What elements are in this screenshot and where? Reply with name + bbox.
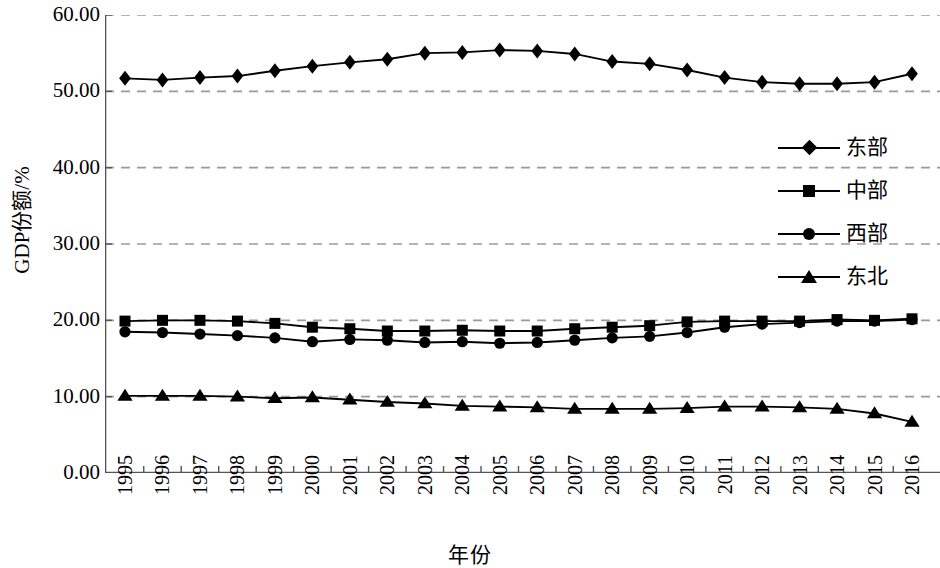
x-tick-label: 2015: [865, 455, 885, 517]
data-point-circle: [382, 335, 393, 346]
data-point-circle: [269, 332, 280, 343]
data-point-circle: [157, 327, 168, 338]
legend-label: 东部: [840, 137, 888, 158]
data-point-circle: [494, 338, 505, 349]
data-point-diamond: [419, 46, 431, 61]
data-point-circle: [419, 337, 430, 348]
data-point-circle: [682, 327, 693, 338]
x-tick-label: 2002: [377, 455, 397, 517]
x-tick-label: 2016: [902, 455, 922, 517]
data-point-diamond: [119, 71, 131, 86]
data-point-square: [269, 318, 280, 329]
data-point-circle: [869, 315, 880, 326]
diamond-marker-icon: [801, 140, 817, 156]
data-point-diamond: [269, 63, 281, 78]
legend-item-东部[interactable]: 东部: [778, 126, 940, 169]
x-tick-label: 1998: [227, 455, 247, 517]
data-point-diamond: [569, 46, 581, 61]
legend-symbol-square-icon: [778, 180, 840, 202]
data-point-triangle: [605, 402, 620, 414]
data-point-diamond: [456, 45, 468, 60]
data-point-square: [307, 322, 318, 333]
data-point-circle: [307, 336, 318, 347]
data-point-square: [232, 316, 243, 327]
data-point-diamond: [756, 75, 768, 90]
data-point-triangle: [717, 399, 732, 411]
data-point-square: [457, 325, 468, 336]
data-point-diamond: [157, 72, 169, 87]
x-tick-label: 2008: [602, 455, 622, 517]
data-point-diamond: [232, 69, 244, 84]
data-point-circle: [644, 331, 655, 342]
x-tick-label: 2005: [490, 455, 510, 517]
data-point-circle: [194, 328, 205, 339]
data-point-circle: [794, 317, 805, 328]
data-point-diamond: [906, 66, 918, 81]
x-tick-label: 2012: [752, 455, 772, 517]
y-tick-label: 0.00: [14, 462, 100, 483]
data-point-diamond: [307, 59, 319, 74]
x-axis-title: 年份: [0, 538, 940, 568]
x-tick-label: 1995: [115, 455, 135, 517]
data-point-triangle: [192, 389, 207, 401]
legend-item-东北[interactable]: 东北: [778, 255, 940, 298]
series-line: [125, 319, 912, 331]
legend-item-西部[interactable]: 西部: [778, 212, 940, 255]
data-point-diamond: [494, 43, 506, 58]
series-4: [117, 389, 919, 427]
data-point-diamond: [381, 52, 393, 67]
circle-marker-icon: [803, 228, 815, 240]
x-tick-marks: [144, 466, 894, 473]
series-line: [125, 50, 912, 84]
data-point-triangle: [530, 400, 545, 412]
x-tick-label: 2011: [715, 455, 735, 517]
x-tick-label: 2010: [677, 455, 697, 517]
data-point-triangle: [117, 389, 132, 401]
x-tick-label: 1999: [265, 455, 285, 517]
data-point-square: [569, 323, 580, 334]
x-tick-label: 2001: [340, 455, 360, 517]
data-point-square: [419, 326, 430, 337]
legend-item-中部[interactable]: 中部: [778, 169, 940, 212]
legend-symbol-triangle-icon: [778, 266, 840, 288]
data-point-triangle: [754, 399, 769, 411]
x-tick-label: 2000: [302, 455, 322, 517]
legend-label: 东北: [840, 266, 888, 287]
data-point-square: [344, 323, 355, 334]
data-point-diamond: [194, 70, 206, 85]
data-point-triangle: [642, 402, 657, 414]
data-point-diamond: [644, 56, 656, 71]
data-point-diamond: [719, 70, 731, 85]
x-tick-label: 2004: [452, 455, 472, 517]
data-point-diamond: [606, 54, 618, 69]
data-point-circle: [756, 319, 767, 330]
triangle-marker-icon: [801, 270, 817, 283]
x-tick-label: 1997: [190, 455, 210, 517]
x-tick-label: 2007: [565, 455, 585, 517]
data-point-circle: [119, 326, 130, 337]
x-tick-label: 2013: [790, 455, 810, 517]
y-tick-label: 30.00: [14, 233, 100, 254]
y-tick-label: 20.00: [14, 309, 100, 330]
data-point-circle: [831, 315, 842, 326]
data-point-diamond: [794, 76, 806, 91]
data-point-square: [194, 315, 205, 326]
x-tick-label: 1996: [152, 455, 172, 517]
data-point-circle: [906, 314, 917, 325]
data-point-square: [607, 322, 618, 333]
y-tick-label: 60.00: [14, 4, 100, 25]
x-tick-label: 2003: [415, 455, 435, 517]
data-point-circle: [344, 334, 355, 345]
data-point-circle: [532, 337, 543, 348]
data-point-square: [494, 326, 505, 337]
data-point-circle: [457, 336, 468, 347]
data-point-triangle: [155, 389, 170, 401]
x-tick-label: 2009: [640, 455, 660, 517]
data-point-square: [682, 316, 693, 327]
chart-legend: 东部中部西部东北: [778, 126, 940, 298]
data-point-square: [157, 315, 168, 326]
data-point-circle: [569, 335, 580, 346]
y-tick-label: 40.00: [14, 157, 100, 178]
data-point-triangle: [230, 390, 245, 402]
gdp-share-line-chart: GDP份额/% 0.0010.0020.0030.0040.0050.0060.…: [0, 0, 940, 568]
